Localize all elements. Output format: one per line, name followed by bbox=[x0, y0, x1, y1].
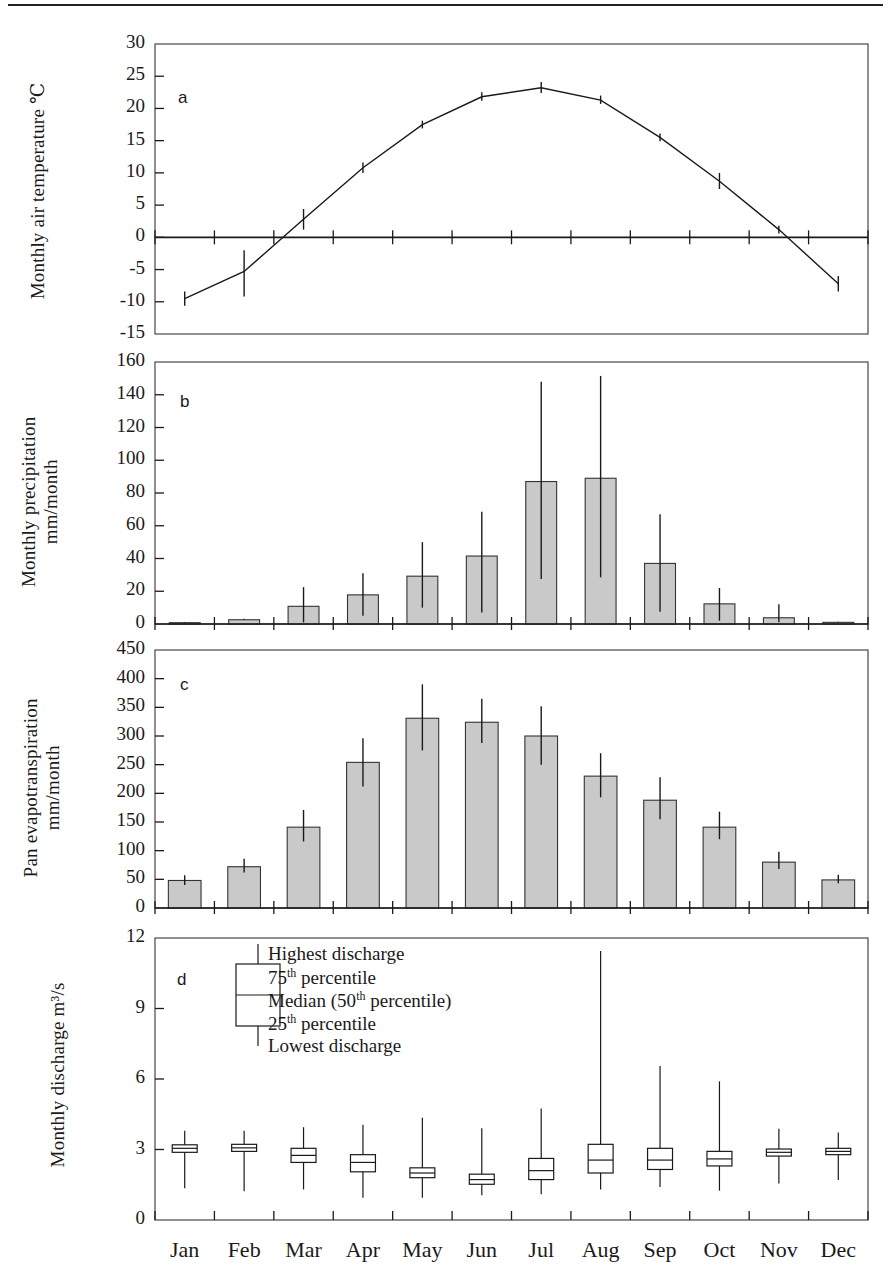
panel-b-ytick-label-20: 20 bbox=[60, 578, 145, 600]
panel-d-ytick-label-3: 3 bbox=[60, 1137, 145, 1159]
panel-b-ytick-label-120: 120 bbox=[60, 415, 145, 437]
legend-25th-number: 25 bbox=[268, 1013, 287, 1034]
panel-c-ytick-label-150: 150 bbox=[60, 809, 145, 831]
panel-b-y-axis-title: Monthly precipitation mm/month bbox=[18, 387, 62, 617]
panel-d-ytick-label-9: 9 bbox=[60, 996, 145, 1018]
panel-a-ytick-label-5: 5 bbox=[60, 192, 145, 214]
panel-a-letter: a bbox=[178, 88, 187, 108]
panel-c-frame bbox=[155, 650, 868, 908]
panel-d-box bbox=[350, 1155, 375, 1172]
panel-b-ytick-label-0: 0 bbox=[60, 611, 145, 633]
panel-a-ytick-label-30: 30 bbox=[60, 31, 145, 53]
panel-c-ytick-label-400: 400 bbox=[60, 666, 145, 688]
panel-d-monthly-discharge: Monthly discharge m³/s 036912 d Highest … bbox=[0, 926, 891, 1226]
panel-a-ytick-label-neg10: -10 bbox=[60, 289, 145, 311]
panel-d-letter: d bbox=[177, 970, 186, 990]
panel-c-ytick-label-300: 300 bbox=[60, 723, 145, 745]
panel-b-letter: b bbox=[180, 392, 189, 412]
panel-d-ytick-label-12: 12 bbox=[60, 925, 145, 947]
legend-75th-percentile: 75th percentile bbox=[268, 967, 376, 987]
panel-d-box bbox=[529, 1158, 554, 1179]
panel-d-box bbox=[588, 1144, 613, 1173]
panel-a-ytick-label-neg15: -15 bbox=[60, 321, 145, 343]
legend-median-prefix: Median (50 bbox=[268, 990, 356, 1011]
legend-25th-percentile: 25th percentile bbox=[268, 1013, 376, 1033]
panel-c-bar bbox=[228, 867, 261, 908]
panel-d-box bbox=[648, 1148, 673, 1169]
panel-c-pan-evapotranspiration: Pan evapotranspiration mm/month 05010015… bbox=[0, 642, 891, 924]
panel-c-ytick-label-100: 100 bbox=[60, 838, 145, 860]
panel-a-ytick-label-15: 15 bbox=[60, 128, 145, 150]
panel-c-ytick-label-0: 0 bbox=[60, 895, 145, 917]
legend-median-50th-percentile: Median (50th percentile) bbox=[268, 990, 451, 1010]
panel-a-ytick-label-0: 0 bbox=[60, 224, 145, 246]
panel-b-ytick-label-140: 140 bbox=[60, 382, 145, 404]
panel-c-ytick-label-250: 250 bbox=[60, 752, 145, 774]
legend-25th-suffix: th bbox=[287, 1012, 296, 1026]
panel-a-air-temperature: Monthly air temperature ℃ -15-10-5051015… bbox=[0, 30, 891, 350]
panel-b-y-axis-title-line2: mm/month bbox=[40, 459, 61, 544]
panel-a-ytick-label-neg5: -5 bbox=[60, 257, 145, 279]
legend-75th-number: 75 bbox=[268, 967, 287, 988]
legend-highest-discharge: Highest discharge bbox=[268, 944, 404, 963]
panel-c-letter: c bbox=[180, 675, 189, 695]
panel-c-ytick-label-200: 200 bbox=[60, 780, 145, 802]
panel-b-precipitation: Monthly precipitation mm/month 020406080… bbox=[0, 352, 891, 640]
panel-b-ytick-label-100: 100 bbox=[60, 447, 145, 469]
panel-a-ytick-label-25: 25 bbox=[60, 63, 145, 85]
panel-a-ytick-label-20: 20 bbox=[60, 95, 145, 117]
header-rule bbox=[8, 4, 883, 6]
panel-c-ytick-label-350: 350 bbox=[60, 694, 145, 716]
panel-c-bar bbox=[465, 722, 498, 908]
figure-root: Monthly air temperature ℃ -15-10-5051015… bbox=[0, 0, 891, 1286]
legend-75th-rest: percentile bbox=[296, 967, 376, 988]
x-axis-label-dec: Dec bbox=[803, 1237, 873, 1263]
panel-d-ytick-label-0: 0 bbox=[60, 1207, 145, 1229]
legend-median-rest: percentile) bbox=[365, 990, 451, 1011]
panel-b-y-axis-title-line1: Monthly precipitation bbox=[18, 417, 39, 587]
panel-c-y-axis-title: Pan evapotranspiration mm/month bbox=[20, 673, 64, 903]
panel-a-ytick-label-10: 10 bbox=[60, 160, 145, 182]
panel-b-ytick-label-160: 160 bbox=[60, 349, 145, 371]
panel-a-frame bbox=[155, 44, 868, 334]
panel-c-bar bbox=[822, 880, 855, 908]
legend-lowest-discharge: Lowest discharge bbox=[268, 1036, 401, 1055]
panel-b-frame bbox=[155, 362, 868, 624]
panel-c-ytick-label-450: 450 bbox=[60, 637, 145, 659]
panel-a-temperature-line bbox=[185, 88, 839, 299]
panel-a-y-axis-title: Monthly air temperature ℃ bbox=[27, 41, 49, 341]
panel-b-ytick-label-80: 80 bbox=[60, 480, 145, 502]
panel-b-ytick-label-40: 40 bbox=[60, 546, 145, 568]
panel-c-ytick-label-50: 50 bbox=[60, 866, 145, 888]
legend-75th-suffix: th bbox=[287, 966, 296, 980]
panel-c-y-axis-title-line1: Pan evapotranspiration bbox=[20, 698, 41, 877]
panel-d-ytick-label-6: 6 bbox=[60, 1066, 145, 1088]
panel-b-ytick-label-60: 60 bbox=[60, 513, 145, 535]
panel-c-bar bbox=[703, 827, 736, 908]
legend-25th-rest: percentile bbox=[296, 1013, 376, 1034]
